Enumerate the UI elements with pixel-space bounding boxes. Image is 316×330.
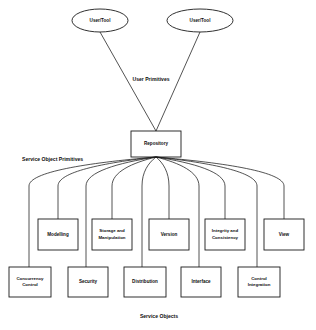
service-objects-label: Service Objects (140, 313, 178, 319)
control-integration-label-line: Control (251, 276, 267, 281)
repository-node-group: Repository (131, 131, 181, 157)
repository-architecture-diagram: User/ToolUser/Tool Repository ModellingS… (0, 0, 316, 330)
concurrency-control-label-line: Concurrency (16, 276, 44, 281)
interface-node: Interface (181, 267, 221, 297)
stem-6-curve (156, 157, 169, 186)
stem-5-curve (142, 157, 156, 186)
distribution-node: Distribution (124, 267, 166, 297)
distribution-label: Distribution (132, 279, 158, 284)
version-label: Version (161, 232, 178, 237)
control-integration-label-line: Integration (248, 282, 271, 287)
concurrency-control-node: ConcurrencyControl (9, 267, 51, 297)
security-label: Security (79, 279, 98, 284)
view-label: View (279, 232, 290, 237)
concurrency-control-label-line: Control (22, 282, 38, 287)
service-object-node-row: ConcurrencyControlSecurityDistributionIn… (9, 267, 280, 297)
user-primitives-label: User Primitives (132, 76, 169, 82)
view-node: View (264, 219, 304, 250)
actor-node-group: User/ToolUser/Tool (72, 9, 233, 32)
integrity-and-consistency-label-line: Integrity and (212, 229, 239, 234)
security-node: Security (68, 267, 108, 297)
repository-label: Repository (144, 141, 168, 146)
integrity-and-consistency-label: Integrity andConsistency (212, 229, 239, 240)
storage-and-manipulation-label: Storage andManipulation (98, 229, 125, 240)
modelling-node: Modelling (38, 219, 78, 250)
service-object-primitives-label: Service Object Primitives (22, 156, 83, 162)
user-tool-right-label: User/Tool (190, 18, 211, 23)
stem-10-curve (156, 157, 284, 186)
integrity-and-consistency-node: Integrity andConsistency (205, 219, 245, 250)
integrity-and-consistency-label-line: Consistency (212, 235, 239, 240)
storage-and-manipulation-label-line: Storage and (99, 229, 125, 234)
diagram-canvas-container: User/ToolUser/Tool Repository ModellingS… (0, 0, 316, 330)
modelling-label: Modelling (47, 232, 69, 237)
user-tool-left-node: User/Tool (72, 9, 128, 32)
interface-label: Interface (191, 279, 211, 284)
storage-and-manipulation-node: Storage andManipulation (92, 219, 132, 250)
control-integration-node: ControlIntegration (238, 267, 280, 297)
storage-and-manipulation-label-line: Manipulation (98, 235, 125, 240)
service-object-primitive-node-row: ModellingStorage andManipulationVersionI… (38, 219, 304, 250)
user-tool-left-label: User/Tool (90, 18, 111, 23)
user-tool-right-node: User/Tool (167, 9, 233, 32)
stem-4-curve (112, 157, 156, 186)
version-node: Version (149, 219, 189, 250)
